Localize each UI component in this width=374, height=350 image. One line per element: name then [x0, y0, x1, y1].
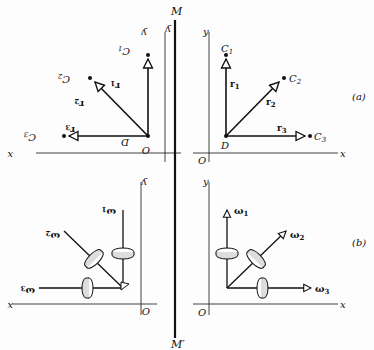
- panel-b-right: [193, 182, 338, 315]
- svg-text:C3: C3: [23, 130, 36, 143]
- mirror-reflection-figure: M M′ y x O D C1 C2 C3 r1 r2 r3 (a) y y: [0, 0, 374, 350]
- vector-r2-label: r2: [266, 97, 276, 109]
- y-axis-label-b: y: [202, 176, 209, 187]
- point-d: [224, 134, 228, 138]
- x-axis-label-b: x: [340, 299, 346, 310]
- svg-text:y: y: [165, 25, 172, 36]
- point-c2: [282, 76, 286, 80]
- panel-b-mirrored-labels: y x O ω1 ω2 ω3: [7, 178, 150, 317]
- svg-text:O: O: [142, 306, 150, 317]
- wheel-3: [257, 278, 268, 298]
- panel-b-label: (b): [352, 237, 366, 248]
- omega1-label: ω1: [234, 205, 249, 218]
- svg-text:C2: C2: [57, 72, 70, 85]
- svg-text:r1: r1: [110, 79, 120, 91]
- svg-text:x: x: [7, 301, 13, 312]
- svg-text:ω1: ω1: [101, 205, 116, 218]
- vector-r3-label: r3: [277, 123, 287, 135]
- point-c2-label: C2: [289, 73, 302, 86]
- x-axis-label: x: [340, 148, 346, 159]
- svg-text:ω2: ω2: [45, 229, 60, 242]
- origin-label: O: [198, 155, 206, 166]
- svg-text:r3: r3: [65, 123, 75, 135]
- point-c3: [308, 134, 312, 138]
- svg-text:D: D: [121, 137, 130, 148]
- mirror-label-bottom: M′: [170, 338, 185, 350]
- point-d-label: D: [220, 140, 229, 151]
- point-c3-label: C3: [314, 131, 327, 144]
- svg-text:x: x: [7, 150, 13, 161]
- svg-text:y: y: [141, 178, 148, 189]
- origin-label-b: O: [198, 307, 206, 318]
- mirror-label-top: M: [170, 5, 183, 18]
- panel-a-label: (a): [352, 91, 366, 102]
- panel-a-mirrored-labels: y x O D C1 C2 C3 r1 r2 r3: [7, 28, 150, 161]
- omega2-label: ω2: [290, 229, 305, 242]
- wheel-1: [216, 248, 238, 259]
- svg-text:ω3: ω3: [20, 284, 35, 297]
- svg-text:y: y: [141, 28, 148, 39]
- svg-text:O: O: [142, 145, 150, 156]
- y-axis-label: y: [202, 26, 209, 37]
- svg-text:r2: r2: [74, 97, 84, 109]
- vector-r1-label: r1: [230, 79, 240, 91]
- omega3-label: ω3: [315, 283, 330, 296]
- panel-a-mirrored: y: [36, 25, 181, 162]
- figure-canvas: M M′ y x O D C1 C2 C3 r1 r2 r3 (a) y y: [0, 0, 374, 350]
- svg-text:C1: C1: [118, 44, 130, 57]
